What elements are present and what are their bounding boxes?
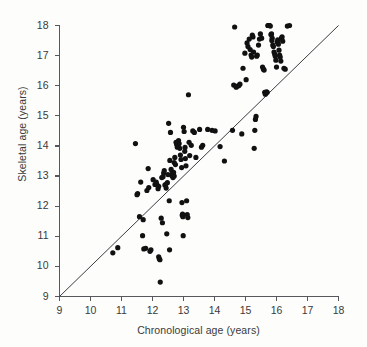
- data-point: [140, 233, 145, 238]
- data-point: [278, 58, 283, 63]
- data-point: [175, 140, 180, 145]
- data-point: [259, 36, 264, 41]
- x-tick-label: 10: [80, 305, 102, 316]
- x-tick-label: 12: [142, 305, 164, 316]
- x-tick-label: 15: [235, 305, 257, 316]
- data-point: [240, 66, 245, 71]
- data-point: [133, 141, 138, 146]
- data-point: [138, 179, 143, 184]
- data-point: [172, 155, 177, 160]
- y-tick-label: 18: [27, 20, 49, 31]
- y-tick-label: 13: [27, 170, 49, 181]
- data-point: [262, 67, 267, 72]
- data-point: [178, 152, 183, 157]
- plot-canvas: [0, 0, 367, 347]
- y-tick-label: 10: [27, 260, 49, 271]
- x-tick-label: 14: [204, 305, 226, 316]
- data-point: [265, 90, 270, 95]
- data-point: [181, 233, 186, 238]
- y-tick-label: 9: [27, 291, 49, 302]
- data-point: [134, 192, 139, 197]
- data-point: [110, 250, 115, 255]
- data-point: [141, 217, 146, 222]
- x-axis-title: Chronological age (years): [59, 324, 338, 336]
- data-point: [143, 246, 148, 251]
- data-point: [178, 157, 183, 162]
- data-point: [172, 173, 177, 178]
- data-point: [252, 128, 257, 133]
- data-point: [250, 34, 255, 39]
- data-point: [232, 24, 237, 29]
- x-tick-label: 11: [111, 305, 133, 316]
- data-point: [287, 23, 292, 28]
- data-points-group: [110, 23, 292, 285]
- data-point: [168, 130, 173, 135]
- data-point: [276, 48, 281, 53]
- data-point: [192, 130, 197, 135]
- data-point: [252, 146, 257, 151]
- data-point: [167, 247, 172, 252]
- data-point: [244, 77, 249, 82]
- data-point: [160, 220, 165, 225]
- y-tick-label: 14: [27, 140, 49, 151]
- x-tick-label: 13: [173, 305, 195, 316]
- data-point: [148, 247, 153, 252]
- data-point: [159, 216, 164, 221]
- data-point: [157, 257, 162, 262]
- data-point: [183, 156, 188, 161]
- data-point: [276, 42, 281, 47]
- data-point: [268, 24, 273, 29]
- data-point: [165, 180, 170, 185]
- y-axis-title: Skeletal age (years): [16, 54, 28, 214]
- data-point: [253, 114, 258, 119]
- data-point: [271, 44, 276, 49]
- data-point: [185, 215, 190, 220]
- scatter-plot-figure: 91011121314151617189101112131415161718 S…: [0, 0, 367, 347]
- data-point: [173, 162, 178, 167]
- data-point: [146, 166, 151, 171]
- data-point: [273, 58, 278, 63]
- identity-line-group: [60, 26, 339, 297]
- x-tick-label: 9: [49, 305, 71, 316]
- y-tick-label: 12: [27, 200, 49, 211]
- data-point: [242, 51, 247, 56]
- y-tick-label: 17: [27, 50, 49, 61]
- data-point: [193, 155, 198, 160]
- data-point: [205, 127, 210, 132]
- data-point: [222, 158, 227, 163]
- y-tick-label: 15: [27, 110, 49, 121]
- data-point: [154, 179, 159, 184]
- x-tick-label: 17: [297, 305, 319, 316]
- data-point: [200, 143, 205, 148]
- y-tick-label: 16: [27, 80, 49, 91]
- data-point: [162, 168, 167, 173]
- data-point: [234, 85, 239, 90]
- data-point: [217, 144, 222, 149]
- data-point: [230, 128, 235, 133]
- data-point: [146, 185, 151, 190]
- data-point: [187, 153, 192, 158]
- x-tick-label: 16: [266, 305, 288, 316]
- data-point: [248, 47, 253, 52]
- data-point: [182, 145, 187, 150]
- data-point: [197, 127, 202, 132]
- data-point: [167, 198, 172, 203]
- data-point: [274, 64, 279, 69]
- data-point: [183, 163, 188, 168]
- data-point: [182, 129, 187, 134]
- data-point: [256, 42, 261, 47]
- data-point: [280, 39, 285, 44]
- identity-line: [60, 26, 339, 297]
- data-point: [213, 128, 218, 133]
- data-point: [189, 143, 194, 148]
- data-point: [269, 38, 274, 43]
- data-point: [249, 55, 254, 60]
- data-point: [255, 52, 260, 57]
- data-point: [158, 279, 163, 284]
- data-point: [115, 245, 120, 250]
- data-point: [239, 131, 244, 136]
- data-point: [186, 92, 191, 97]
- data-point: [184, 198, 189, 203]
- data-point: [179, 200, 184, 205]
- data-point: [166, 121, 171, 126]
